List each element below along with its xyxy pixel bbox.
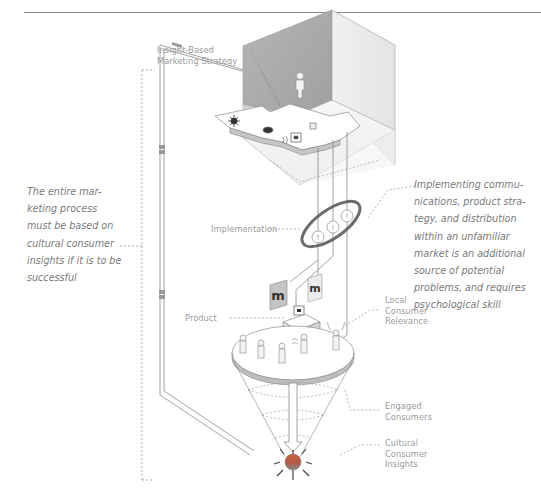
pipe-markers xyxy=(159,42,182,299)
person-icon xyxy=(333,330,339,350)
label-engaged-consumers: EngagedConsumers xyxy=(385,401,432,422)
svg-text:!: ! xyxy=(317,234,320,242)
strategy-room xyxy=(243,10,395,185)
label-product: Product xyxy=(185,313,217,324)
label-cultural-insights: CulturalConsumerInsights xyxy=(385,438,428,470)
person-icon xyxy=(240,335,246,353)
svg-text:!: ! xyxy=(332,224,335,232)
person-icon xyxy=(301,334,307,353)
label-strategy: Insight-BasedMarketing Strategy xyxy=(157,45,237,66)
svg-text:!: ! xyxy=(346,213,349,221)
person-icon xyxy=(279,343,285,363)
note-right: Implementing commu-nications, product st… xyxy=(414,176,526,314)
label-implementation: Implementation xyxy=(211,224,277,235)
feedback-pipe xyxy=(160,45,254,455)
target-icon xyxy=(263,127,273,133)
process-bracket xyxy=(120,70,155,480)
note-left: The entire mar-keting processmust be bas… xyxy=(27,183,121,286)
truck-icon xyxy=(310,123,316,129)
insight-orb xyxy=(274,449,312,480)
insight-arrow xyxy=(284,383,302,452)
implementation-risks: ! ! ! xyxy=(295,193,367,255)
svg-text:m: m xyxy=(271,288,285,303)
person-icon xyxy=(258,340,264,358)
svg-text:m: m xyxy=(309,282,320,295)
